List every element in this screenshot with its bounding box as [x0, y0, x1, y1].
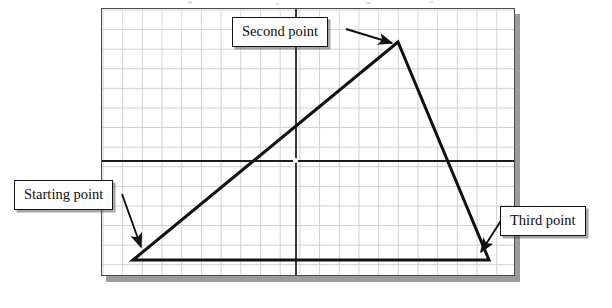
- figure-canvas: Starting point Second point Third point: [0, 0, 612, 308]
- scan-artifact: [366, 2, 371, 4]
- scan-artifact: [188, 1, 192, 4]
- grid-drawing-sheet: [101, 8, 515, 276]
- callout-label-second-point: Second point: [232, 17, 328, 47]
- callout-label-starting-point: Starting point: [14, 180, 113, 210]
- triangle-outline: [133, 42, 489, 260]
- scan-artifact: [276, 3, 279, 5]
- scan-artifact: [430, 1, 433, 3]
- triangle-shape: [102, 9, 515, 276]
- callout-label-third-point: Third point: [500, 206, 586, 236]
